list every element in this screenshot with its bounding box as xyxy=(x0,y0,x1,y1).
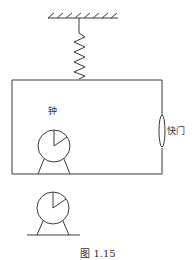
clock-in-box xyxy=(38,130,70,174)
clock-outside xyxy=(27,192,80,235)
spring xyxy=(74,18,85,79)
shutter xyxy=(159,115,165,147)
ceiling-support xyxy=(48,13,118,18)
shutter-label: 快门 xyxy=(167,125,185,136)
frame-box xyxy=(12,80,162,174)
clock-label: 钟 xyxy=(48,105,57,116)
physics-diagram: 快门 钟 图 1.15 xyxy=(0,0,196,260)
figure-caption: 图 1.15 xyxy=(80,248,115,259)
